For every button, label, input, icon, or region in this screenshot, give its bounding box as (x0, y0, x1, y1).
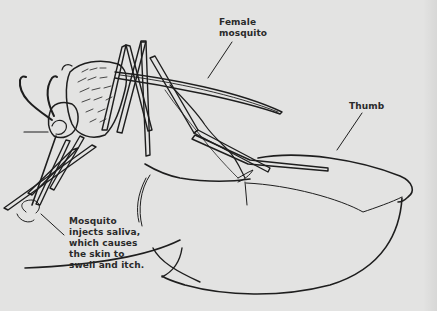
leg-3-lower (194, 130, 270, 172)
label-female-mosquito: Female mosquito (219, 17, 267, 39)
thorax-hair-strokes (78, 68, 112, 122)
leader-line-female-mosquito (208, 42, 232, 78)
leg-rear (192, 135, 328, 171)
thorax-bump (62, 65, 72, 70)
wing-upper (115, 72, 282, 114)
leader-line-thumb (337, 113, 362, 150)
leg-3 (150, 56, 198, 133)
label-thumb: Thumb (349, 101, 384, 112)
thumbnail-line (246, 183, 402, 212)
label-saliva-note: Mosquito injects saliva, which causes th… (69, 216, 144, 271)
page-edge-shadow (423, 0, 437, 311)
mosquito-head (20, 76, 78, 137)
thumb-lower-outline (162, 198, 402, 294)
bite-site-circle-lower (17, 214, 34, 222)
antenna-right (48, 76, 57, 116)
thumb-upper-outline (258, 155, 412, 202)
leader-line-saliva (41, 214, 64, 235)
finger-top-outline (145, 164, 250, 181)
bite-site-circle (22, 200, 40, 213)
leg-2-lower (141, 42, 150, 156)
mosquito-illustration (0, 0, 437, 311)
abdomen-wavy (170, 85, 245, 178)
foreleg-2 (28, 148, 78, 195)
thumb-fold-line (245, 182, 247, 205)
eye-outline (52, 120, 66, 134)
